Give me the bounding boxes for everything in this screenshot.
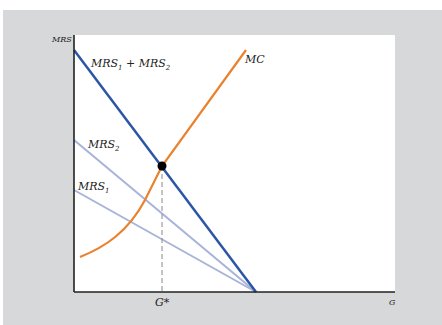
g-star-label: G* xyxy=(155,296,170,309)
y-axis-label: MRS xyxy=(51,35,72,44)
x-axis-label: G xyxy=(389,298,396,307)
equilibrium-point xyxy=(158,162,167,171)
mc-curve xyxy=(80,50,246,257)
mrs1-line xyxy=(74,190,256,292)
mrs-sum-line xyxy=(74,50,256,292)
mrs-sum-label: MRS1 + MRS2 xyxy=(90,57,171,72)
mc-label: MC xyxy=(244,53,265,66)
chart-svg: MRS G MRS1 + MRS2 MRS2 MRS1 MC G* xyxy=(0,0,442,325)
mrs1-label: MRS1 xyxy=(77,180,110,195)
mrs2-label: MRS2 xyxy=(87,138,120,153)
